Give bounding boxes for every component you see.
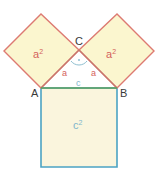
pythagorean-theorem-figure: a2 a2 c2 a a c A B C xyxy=(0,0,157,177)
vertex-label-b: B xyxy=(120,87,127,99)
side-label-leg-a-left: a xyxy=(62,68,67,78)
vertex-label-a: A xyxy=(31,87,39,99)
area-label-hyp-exponent: 2 xyxy=(79,119,83,126)
right-angle-dot-icon xyxy=(78,59,80,61)
side-label-leg-a-right: a xyxy=(91,68,96,78)
geometry-canvas: a2 a2 c2 a a c A B C xyxy=(0,0,157,177)
area-label-left-exponent: 2 xyxy=(39,48,43,55)
side-label-hypotenuse-c: c xyxy=(76,78,81,88)
area-label-right-exponent: 2 xyxy=(112,48,116,55)
vertex-label-c: C xyxy=(75,35,83,47)
right-angle-arc-icon xyxy=(71,61,87,65)
hypotenuse-square xyxy=(41,88,117,167)
